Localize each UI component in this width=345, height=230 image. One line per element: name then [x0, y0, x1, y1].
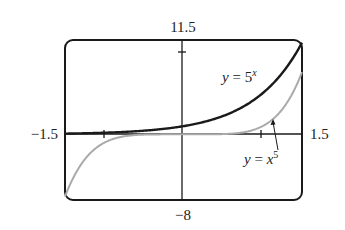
xmax-label: 1.5: [310, 126, 329, 142]
xmin-label: −1.5: [31, 126, 58, 142]
ymin-label: −8: [175, 207, 191, 223]
window-frame: [65, 40, 302, 200]
curve-5-to-x: [65, 43, 302, 134]
annotation-arrow: [273, 122, 278, 150]
graphing-calculator-plot: 11.5 −8 −1.5 1.5 y = 5x y = x5: [0, 0, 345, 230]
label-x-to-5th: y = x5: [242, 149, 278, 167]
ymax-label: 11.5: [170, 19, 196, 35]
label-5-to-x: y = 5x: [220, 67, 257, 85]
